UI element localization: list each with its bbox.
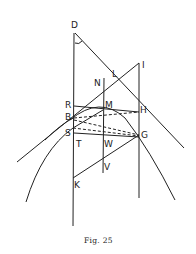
- label-v: V: [104, 162, 111, 172]
- dashed-b-g: [74, 120, 139, 135]
- label-b: B: [65, 112, 71, 122]
- label-w: W: [104, 139, 113, 149]
- label-m: M: [105, 100, 113, 110]
- figure-caption: Fig. 25: [84, 236, 113, 245]
- label-d: D: [71, 20, 78, 30]
- line-dh: [75, 33, 184, 148]
- label-n: N: [94, 78, 101, 88]
- label-h: H: [140, 105, 147, 115]
- label-t: T: [75, 139, 82, 149]
- label-g: G: [141, 130, 148, 140]
- line-d-vertical: [73, 33, 74, 226]
- geometry-figure: D N L I R M H B S T W G V K Fig. 25: [0, 0, 196, 254]
- angle-arc-d: [75, 41, 82, 44]
- label-s: S: [65, 128, 71, 138]
- dashed-b-h: [74, 112, 139, 118]
- label-k: K: [74, 180, 81, 190]
- curve-left-outer: [26, 128, 73, 202]
- label-r: R: [65, 100, 71, 110]
- label-l: L: [112, 69, 117, 79]
- label-i: I: [142, 60, 145, 70]
